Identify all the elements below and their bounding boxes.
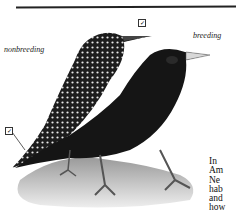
body-text: In Am Ne hab and how xyxy=(209,157,225,212)
check-box-icon: ✓ xyxy=(5,127,13,135)
nonbreeding-label: nonbreeding xyxy=(4,45,44,54)
body-text-line: how xyxy=(209,203,225,212)
check-box-icon: ✓ xyxy=(138,19,146,27)
breeding-label: breeding xyxy=(193,31,221,40)
